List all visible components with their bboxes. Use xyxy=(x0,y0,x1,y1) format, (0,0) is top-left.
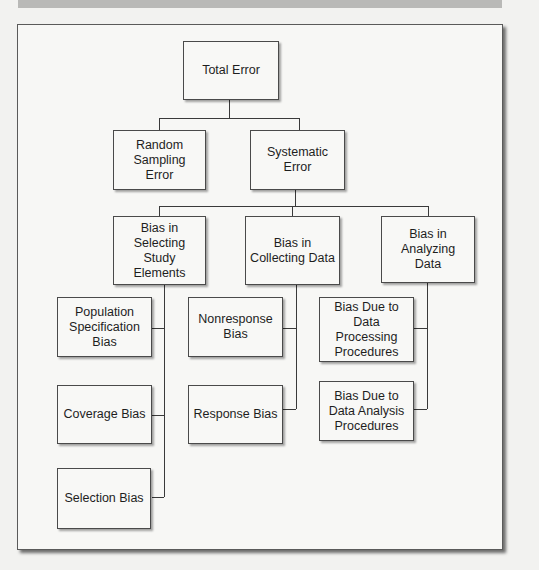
node-bias-data-analysis-procedures: Bias Due to Data Analysis Procedures xyxy=(319,381,414,441)
node-label: Coverage Bias xyxy=(64,407,146,422)
connector xyxy=(152,415,164,416)
connector xyxy=(152,328,164,329)
connector xyxy=(414,328,427,329)
node-nonresponse-bias: Nonresponse Bias xyxy=(188,297,283,357)
node-label: Selection Bias xyxy=(64,491,143,506)
node-bias-collecting-data: Bias in Collecting Data xyxy=(245,216,340,285)
node-label: Nonresponse Bias xyxy=(198,312,272,342)
node-bias-data-processing-procedures: Bias Due to Data Processing Procedures xyxy=(319,297,414,362)
connector xyxy=(427,283,428,409)
node-systematic-error: Systematic Error xyxy=(250,130,345,190)
connector xyxy=(159,206,429,207)
node-label: Bias Due to Data Analysis Procedures xyxy=(329,389,405,434)
node-coverage-bias: Coverage Bias xyxy=(57,385,152,444)
node-label: Random Sampling Error xyxy=(118,138,201,183)
node-label: Population Specification Bias xyxy=(69,305,140,350)
connector xyxy=(296,285,297,409)
node-label: Bias Due to Data Processing Procedures xyxy=(334,300,399,360)
node-random-sampling-error: Random Sampling Error xyxy=(113,130,206,190)
connector xyxy=(164,285,165,497)
node-bias-selecting-study-elements: Bias in Selecting Study Elements xyxy=(113,216,206,285)
node-population-specification-bias: Population Specification Bias xyxy=(57,297,152,357)
node-label: Bias in Analyzing Data xyxy=(386,227,470,272)
connector xyxy=(152,497,164,498)
connector xyxy=(159,118,160,130)
connector xyxy=(428,206,429,216)
node-response-bias: Response Bias xyxy=(188,385,283,444)
node-bias-analyzing-data: Bias in Analyzing Data xyxy=(381,216,475,283)
connector xyxy=(283,409,296,410)
node-label: Response Bias xyxy=(193,407,277,422)
node-label: Total Error xyxy=(202,63,260,78)
connector xyxy=(159,118,300,119)
node-label: Systematic Error xyxy=(267,145,328,175)
node-label: Bias in Selecting Study Elements xyxy=(118,221,201,281)
connector xyxy=(283,328,296,329)
connector xyxy=(229,100,230,118)
connector xyxy=(292,206,293,216)
node-selection-bias: Selection Bias xyxy=(57,468,151,529)
connector xyxy=(159,206,160,216)
connector xyxy=(414,409,427,410)
node-total-error: Total Error xyxy=(183,41,279,100)
top-band-decoration xyxy=(18,0,502,8)
node-label: Bias in Collecting Data xyxy=(250,236,335,266)
connector xyxy=(295,190,296,206)
connector xyxy=(299,118,300,130)
